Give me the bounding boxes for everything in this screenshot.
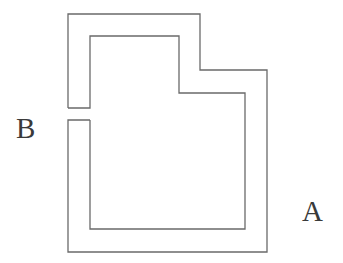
outer-wall bbox=[68, 14, 267, 252]
corridor-diagram bbox=[0, 0, 343, 263]
point-b-label: B bbox=[16, 114, 35, 143]
inner-wall bbox=[68, 36, 245, 229]
point-a-label: A bbox=[302, 197, 323, 226]
